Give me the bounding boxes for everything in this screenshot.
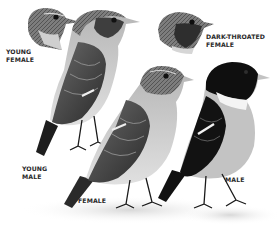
label-male: MALE	[225, 176, 245, 184]
label-young-male: YOUNG MALE	[22, 165, 47, 181]
label-female: FEMALE	[78, 197, 106, 205]
illustration-canvas: YOUNG FEMALE DARK-THROATED FEMALE YOUNG …	[0, 0, 280, 238]
label-dark-throated-female: DARK-THROATED FEMALE	[206, 33, 265, 49]
label-young-female: YOUNG FEMALE	[6, 48, 34, 64]
